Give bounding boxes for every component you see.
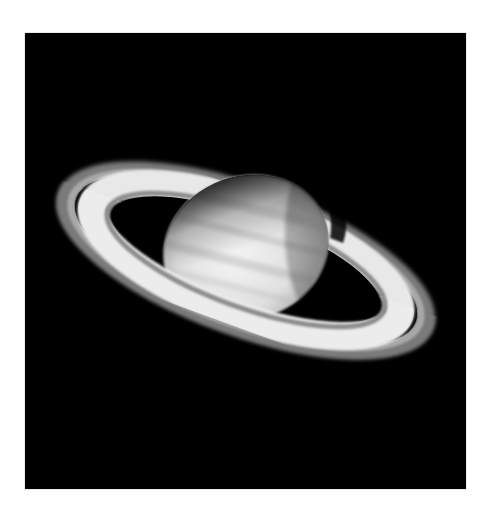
saturn-photo <box>25 33 466 489</box>
saturn-illustration <box>25 33 466 489</box>
